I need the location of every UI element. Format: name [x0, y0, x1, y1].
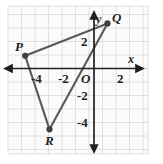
- x-tick-label-neg2: -2: [58, 72, 69, 85]
- point-r-label: R: [45, 134, 54, 147]
- y-tick-label-pos2: 2: [81, 35, 88, 48]
- y-tick-label-neg2: -2: [77, 89, 88, 102]
- x-axis-arrow-left: [5, 65, 12, 72]
- point-q-label: Q: [112, 11, 121, 24]
- coordinate-plane-figure: -4 -2 2 2 -2 -4 O x y P Q R: [0, 0, 163, 164]
- x-tick-label-neg4: -4: [31, 72, 42, 85]
- x-axis-arrow-right: [136, 65, 143, 72]
- x-tick-label-pos2: 2: [117, 72, 124, 85]
- y-tick-label-neg4: -4: [77, 116, 88, 129]
- point-p-label: P: [15, 40, 23, 53]
- y-axis-arrow-down: [91, 145, 98, 152]
- y-axis-name: y: [96, 13, 101, 25]
- x-axis-name: x: [128, 53, 134, 65]
- origin-label: O: [81, 72, 90, 85]
